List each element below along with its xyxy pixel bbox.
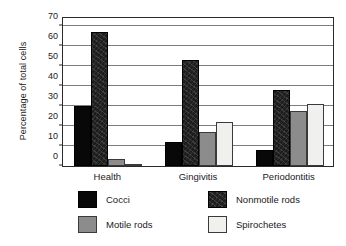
y-axis-tick-label: 0 [28, 151, 58, 161]
gridline [63, 25, 333, 26]
x-axis-category-label: Periodontitis [263, 171, 315, 182]
legend-label: Cocci [106, 194, 130, 205]
legend-item-spirochetes: Spirochetes [208, 216, 286, 233]
y-axis-tick-mark [59, 65, 63, 66]
y-axis-tick-label: 40 [28, 71, 58, 81]
legend-label: Spirochetes [236, 219, 286, 230]
bar-periodontitis-motile-rods [290, 111, 307, 166]
legend-swatch-nonmotile [208, 191, 227, 208]
y-axis-tick-label: 60 [28, 31, 58, 41]
y-axis-tick-label: 70 [28, 11, 58, 21]
y-axis-tick-mark [59, 45, 63, 46]
bar-gingivitis-motile-rods [199, 132, 216, 166]
legend-swatch-spiro [208, 216, 227, 233]
legend-swatch-motile [78, 216, 97, 233]
bar-periodontitis-nonmotile-rods [273, 90, 290, 166]
chart-legend: CocciNonmotile rodsMotile rodsSpirochete… [60, 191, 330, 239]
bar-periodontitis-spirochetes [307, 104, 324, 166]
legend-label: Nonmotile rods [236, 194, 300, 205]
bar-gingivitis-nonmotile-rods [182, 60, 199, 166]
bar-gingivitis-cocci [165, 142, 182, 166]
y-axis-tick-label: 50 [28, 51, 58, 61]
y-axis-tick-label: 20 [28, 111, 58, 121]
y-axis-tick-label: 10 [28, 131, 58, 141]
legend-label: Motile rods [106, 219, 152, 230]
x-axis-category-label: Gingivitis [179, 171, 218, 182]
y-axis-tick-mark [59, 105, 63, 106]
legend-item-nonmotile-rods: Nonmotile rods [208, 191, 300, 208]
bar-health-motile-rods [108, 159, 125, 166]
legend-swatch-cocci [78, 191, 97, 208]
x-axis-category-label: Health [94, 171, 121, 182]
y-axis-tick-mark [59, 25, 63, 26]
y-axis-tick-mark [59, 85, 63, 86]
y-axis-tick-mark [59, 125, 63, 126]
legend-item-motile-rods: Motile rods [78, 216, 152, 233]
bar-gingivitis-spirochetes [216, 122, 233, 166]
y-axis-tick-mark [59, 145, 63, 146]
bar-health-nonmotile-rods [91, 32, 108, 166]
bar-periodontitis-cocci [256, 150, 273, 166]
bar-health-spirochetes [125, 164, 142, 166]
bar-chart-figure: Percentage of total cells 01020304050607… [0, 0, 346, 246]
plot-area: 010203040506070 [62, 17, 334, 167]
y-axis-tick-mark [59, 165, 63, 166]
bar-health-cocci [74, 106, 91, 166]
legend-item-cocci: Cocci [78, 191, 130, 208]
y-axis-tick-label: 30 [28, 91, 58, 101]
